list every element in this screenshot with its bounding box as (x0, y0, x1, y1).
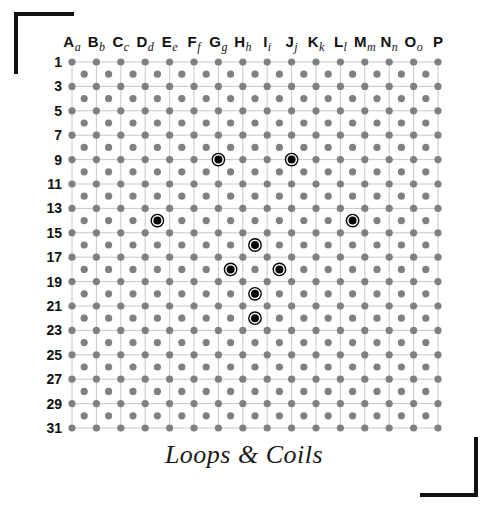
row-header-21[interactable]: 21 (34, 299, 62, 313)
pattern-plate: AaBbCcDdEeFfGgHhIiJjKkLlMmNnOoP 13579111… (0, 0, 488, 507)
row-header-5[interactable]: 5 (34, 104, 62, 118)
row-header-13[interactable]: 13 (34, 201, 62, 215)
row-header-17[interactable]: 17 (34, 250, 62, 264)
page-title: Loops & Coils (0, 440, 488, 470)
row-header-7[interactable]: 7 (34, 128, 62, 142)
row-header-23[interactable]: 23 (34, 323, 62, 337)
row-header-29[interactable]: 29 (34, 397, 62, 411)
row-header-1[interactable]: 1 (34, 55, 62, 69)
row-header-25[interactable]: 25 (34, 348, 62, 362)
row-header-11[interactable]: 11 (34, 177, 62, 191)
row-header-9[interactable]: 9 (34, 153, 62, 167)
row-header-3[interactable]: 3 (34, 79, 62, 93)
row-header-19[interactable]: 19 (34, 275, 62, 289)
row-header-27[interactable]: 27 (34, 372, 62, 386)
row-header-column: 135791113151719212325272931 (0, 0, 488, 507)
row-header-31[interactable]: 31 (34, 421, 62, 435)
row-header-15[interactable]: 15 (34, 226, 62, 240)
